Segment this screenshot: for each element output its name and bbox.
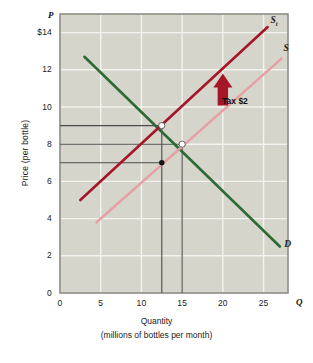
x-axis-title: Quantity xyxy=(0,316,313,326)
x-tick-label: 10 xyxy=(127,298,155,308)
tax-annotation-label: Tax $2 xyxy=(222,96,248,106)
price-received-by-seller xyxy=(159,160,164,165)
y-tick-label: 4 xyxy=(18,213,52,223)
x-tick-label: 0 xyxy=(46,298,74,308)
y-tick-label: 12 xyxy=(18,64,52,74)
curve-label-S: S xyxy=(283,43,288,53)
equilibrium-no-tax xyxy=(179,141,185,147)
curve-label-St: St xyxy=(270,15,277,27)
x-tick-label: 25 xyxy=(250,298,278,308)
x-axis-subtitle: (millions of bottles per month) xyxy=(0,330,313,340)
y-axis-title: Price (per bottle) xyxy=(20,98,30,208)
x-tick-label: 20 xyxy=(209,298,237,308)
curve-label-D: D xyxy=(284,239,291,249)
y-tick-label: $14 xyxy=(18,27,52,37)
y-tick-label: 2 xyxy=(18,250,52,260)
x-tick-label: 5 xyxy=(87,298,115,308)
x-axis-letter: Q xyxy=(296,297,303,307)
y-tick-label: 0 xyxy=(18,288,52,298)
equilibrium-with-tax xyxy=(159,123,165,129)
x-tick-label: 15 xyxy=(168,298,196,308)
supply-demand-tax-figure: P Q 024681012$14 0510152025 DStS Price (… xyxy=(0,0,313,363)
y-axis-letter: P xyxy=(48,10,54,20)
